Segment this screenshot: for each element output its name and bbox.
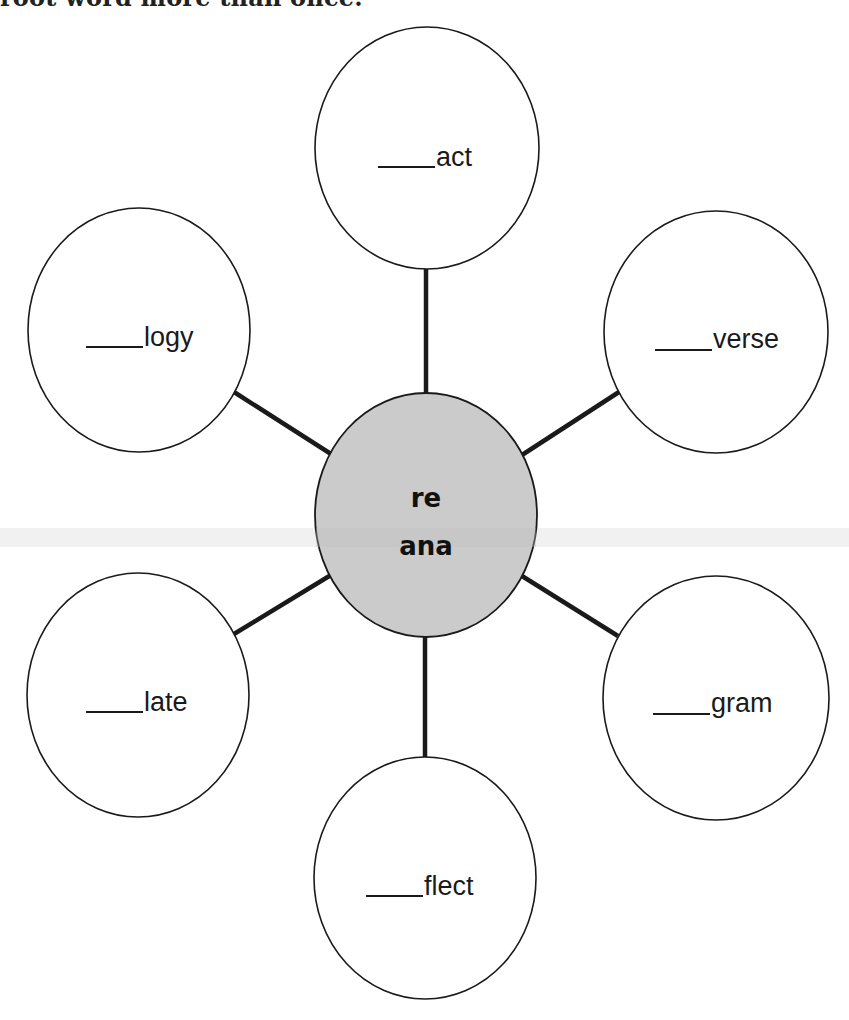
suffix-verse: verse xyxy=(713,324,779,354)
node-circle-top xyxy=(315,27,539,269)
center-prefix-ana: ana xyxy=(399,531,453,561)
connector-lower-left xyxy=(234,575,331,634)
suffix-logy: logy xyxy=(144,322,194,352)
connector-lower-right xyxy=(522,576,618,636)
node-circle-lower-left xyxy=(27,573,249,817)
suffix-late: late xyxy=(144,687,188,717)
suffix-gram: gram xyxy=(711,688,773,718)
center-circle xyxy=(315,393,537,637)
suffix-act: act xyxy=(436,142,473,172)
suffix-flect: flect xyxy=(424,871,474,901)
word-web-diagram: re ana act logy verse late gram flect xyxy=(0,0,849,1020)
node-circle-upper-left xyxy=(28,208,250,452)
connector-upper-right xyxy=(522,392,619,455)
center-prefix-re: re xyxy=(411,483,441,513)
connector-upper-left xyxy=(234,392,331,454)
